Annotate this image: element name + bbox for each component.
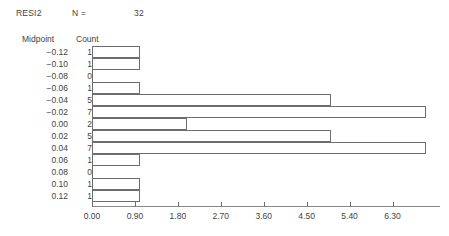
x-axis-tick-label: 2.70 xyxy=(201,211,241,221)
histogram-bar xyxy=(92,106,426,118)
histogram-bar xyxy=(92,46,140,58)
histogram-row: 0.101 xyxy=(0,178,449,190)
histogram-row: 0.121 xyxy=(0,190,449,202)
x-axis-line xyxy=(92,206,440,207)
midpoint-label: −0.02 xyxy=(22,107,68,117)
histogram-row: 0.002 xyxy=(0,118,449,130)
histogram-bar xyxy=(92,130,331,142)
count-label: 5 xyxy=(74,95,92,105)
midpoint-label: 0.08 xyxy=(22,167,68,177)
midpoint-label: −0.08 xyxy=(22,71,68,81)
x-axis-tick xyxy=(221,202,222,207)
x-axis-tick-label: 6.30 xyxy=(373,211,413,221)
count-label: 1 xyxy=(74,191,92,201)
bar-track xyxy=(92,82,444,94)
count-label: 7 xyxy=(74,143,92,153)
bar-track xyxy=(92,154,444,166)
histogram-row: −0.101 xyxy=(0,58,449,70)
histogram-row: 0.025 xyxy=(0,130,449,142)
midpoint-label: 0.00 xyxy=(22,119,68,129)
midpoint-label: 0.10 xyxy=(22,179,68,189)
header-line: RESI2 N = 32 xyxy=(16,8,436,22)
histogram-plot: −0.121−0.101−0.080−0.061−0.045−0.0270.00… xyxy=(0,46,449,236)
midpoint-label: 0.02 xyxy=(22,131,68,141)
count-label: 7 xyxy=(74,107,92,117)
bar-track xyxy=(92,166,444,178)
x-axis-tick xyxy=(350,202,351,207)
x-axis-tick xyxy=(135,202,136,207)
midpoint-label: −0.12 xyxy=(22,47,68,57)
bar-track xyxy=(92,106,444,118)
histogram-row: −0.121 xyxy=(0,46,449,58)
count-label: 0 xyxy=(74,71,92,81)
column-header-count: Count xyxy=(76,34,110,44)
histogram-bar xyxy=(92,118,187,130)
histogram-row: 0.061 xyxy=(0,154,449,166)
histogram-row: −0.027 xyxy=(0,106,449,118)
midpoint-label: −0.10 xyxy=(22,59,68,69)
x-axis-tick-label: 1.80 xyxy=(158,211,198,221)
count-label: 1 xyxy=(74,47,92,57)
x-axis-tick-label: 0.90 xyxy=(115,211,155,221)
histogram-row: 0.080 xyxy=(0,166,449,178)
count-label: 5 xyxy=(74,131,92,141)
histogram-bar xyxy=(92,94,331,106)
bar-track xyxy=(92,130,444,142)
bar-track xyxy=(92,190,444,202)
histogram-row: −0.061 xyxy=(0,82,449,94)
histogram-bar xyxy=(92,190,140,202)
n-value: 32 xyxy=(134,8,144,18)
count-label: 2 xyxy=(74,119,92,129)
histogram-bar xyxy=(92,142,426,154)
count-label: 0 xyxy=(74,167,92,177)
x-axis-tick-label: 5.40 xyxy=(330,211,370,221)
midpoint-label: 0.04 xyxy=(22,143,68,153)
midpoint-label: 0.06 xyxy=(22,155,68,165)
histogram-bar xyxy=(92,154,140,166)
variable-name: RESI2 xyxy=(16,8,42,18)
histogram-bar xyxy=(92,178,140,190)
midpoint-label: 0.12 xyxy=(22,191,68,201)
histogram-row: 0.047 xyxy=(0,142,449,154)
x-axis-tick xyxy=(92,202,93,207)
histogram-row: −0.080 xyxy=(0,70,449,82)
count-label: 1 xyxy=(74,179,92,189)
x-axis-tick xyxy=(393,202,394,207)
histogram-bar xyxy=(92,58,140,70)
bar-track xyxy=(92,118,444,130)
x-axis-tick-label: 3.60 xyxy=(244,211,284,221)
x-axis-tick-label: 4.50 xyxy=(287,211,327,221)
bar-track xyxy=(92,94,444,106)
x-axis-tick xyxy=(307,202,308,207)
x-axis-tick xyxy=(264,202,265,207)
bar-track xyxy=(92,178,444,190)
column-header-midpoint: Midpoint xyxy=(22,34,68,44)
x-axis-tick-label: 0.00 xyxy=(72,211,112,221)
x-axis-tick xyxy=(178,202,179,207)
histogram-row: −0.045 xyxy=(0,94,449,106)
bar-track xyxy=(92,142,444,154)
count-label: 1 xyxy=(74,59,92,69)
column-headers: Midpoint Count xyxy=(0,34,140,46)
n-label: N = xyxy=(72,8,86,18)
bar-track xyxy=(92,46,444,58)
histogram-bar xyxy=(92,82,140,94)
bar-track xyxy=(92,58,444,70)
midpoint-label: −0.04 xyxy=(22,95,68,105)
bar-track xyxy=(92,70,444,82)
count-label: 1 xyxy=(74,155,92,165)
midpoint-label: −0.06 xyxy=(22,83,68,93)
count-label: 1 xyxy=(74,83,92,93)
